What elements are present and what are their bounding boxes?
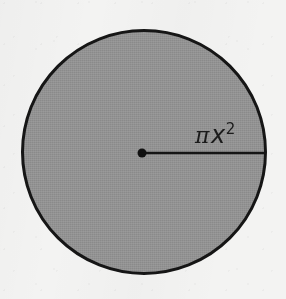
center-dot	[138, 149, 147, 158]
circle-area-figure: πx2	[0, 0, 286, 299]
area-formula-label: πx2	[195, 122, 236, 147]
pi-symbol: π	[195, 123, 210, 148]
variable-symbol: x	[211, 121, 226, 149]
exponent-symbol: 2	[226, 120, 236, 138]
diagram-canvas	[0, 0, 286, 299]
